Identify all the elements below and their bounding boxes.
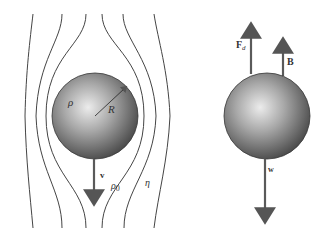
diagram-canvas: ρ R v ρ0 η Fd B w	[0, 0, 323, 240]
velocity-label: v	[100, 170, 105, 180]
buoyant-force-label: B	[287, 56, 294, 67]
viscosity-label: η	[145, 177, 150, 188]
sphere-density-label: ρ	[67, 96, 73, 108]
free-body-sphere	[224, 73, 310, 159]
streamline-1	[25, 14, 33, 228]
drag-force-label: Fd	[236, 39, 246, 52]
streamline-6	[154, 14, 170, 228]
radius-label: R	[107, 103, 115, 115]
fluid-density-label: ρ0	[110, 180, 120, 193]
weight-label: w	[268, 165, 274, 174]
